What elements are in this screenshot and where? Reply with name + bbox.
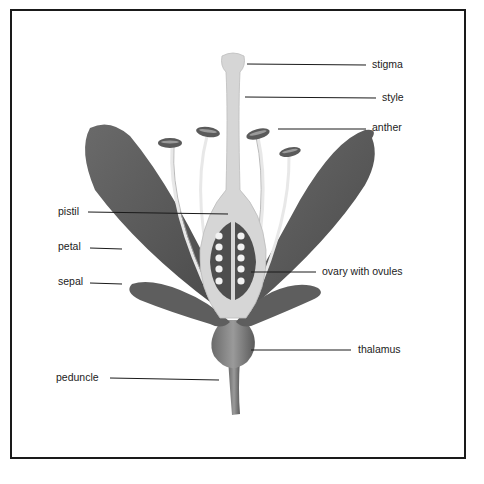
label-stigma: stigma: [372, 58, 403, 70]
label-style: style: [382, 91, 404, 103]
label-thalamus: thalamus: [358, 343, 401, 355]
label-peduncle: peduncle: [56, 371, 99, 383]
label-anther: anther: [372, 121, 402, 133]
label-sepal: sepal: [58, 275, 83, 287]
label-ovary-with-ovules: ovary with ovules: [322, 265, 403, 277]
pistil-shape: [200, 53, 266, 318]
label-pistil: pistil: [58, 205, 79, 217]
thalamus-shape: [211, 320, 255, 368]
label-petal: petal: [58, 240, 81, 252]
